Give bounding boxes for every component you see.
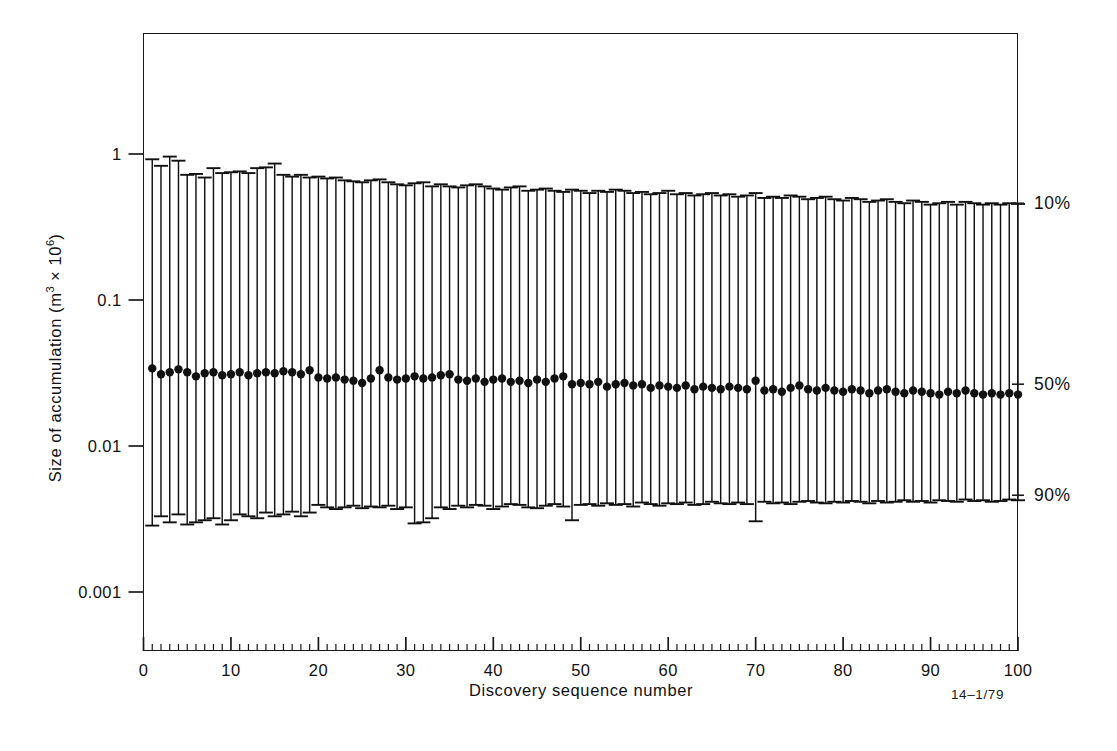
- error-bar: [670, 194, 684, 504]
- figure-reference-number: 14–1/79: [951, 687, 1004, 702]
- median-marker: [559, 372, 567, 380]
- error-bar: [661, 191, 675, 504]
- error-bar: [320, 178, 334, 507]
- median-marker: [979, 390, 987, 398]
- error-bar: [486, 189, 500, 510]
- figure-panel: 10.10.010.001 0102030405060708090100 10%…: [0, 0, 1117, 751]
- error-bar: [198, 178, 212, 521]
- median-marker: [305, 366, 313, 374]
- x-axis-tick-label: 40: [484, 661, 503, 680]
- percentile-label: 90%: [1034, 485, 1071, 506]
- x-axis-title: Discovery sequence number: [469, 681, 693, 700]
- median-marker: [489, 375, 497, 383]
- error-bar: [180, 175, 194, 525]
- error-bar: [513, 186, 527, 505]
- median-marker: [647, 384, 655, 392]
- error-bar: [154, 166, 168, 516]
- error-bar: [889, 202, 903, 502]
- error-bar: [224, 172, 238, 520]
- median-marker: [944, 388, 952, 396]
- median-marker: [673, 384, 681, 392]
- error-bar: [521, 191, 535, 508]
- median-marker: [349, 377, 357, 385]
- median-marker: [183, 368, 191, 376]
- error-bar: [967, 203, 981, 501]
- error-bar: [722, 194, 736, 504]
- error-bar: [443, 186, 457, 509]
- error-bar: [626, 193, 640, 506]
- error-bar: [346, 181, 360, 505]
- error-bar: [434, 184, 448, 507]
- median-marker: [935, 390, 943, 398]
- median-marker: [437, 371, 445, 379]
- error-bar: [451, 187, 465, 505]
- error-bar: [731, 197, 745, 503]
- median-marker: [760, 386, 768, 394]
- median-marker: [690, 385, 698, 393]
- error-bar: [644, 194, 658, 504]
- median-marker: [393, 375, 401, 383]
- error-bar: [338, 180, 352, 507]
- median-marker: [332, 373, 340, 381]
- error-bar: [679, 193, 693, 502]
- median-marker: [288, 368, 296, 376]
- error-bar: [1011, 204, 1025, 500]
- median-marker: [297, 370, 305, 378]
- median-marker: [498, 374, 506, 382]
- error-bar: [652, 193, 666, 506]
- error-bar: [206, 168, 220, 518]
- error-bar: [617, 191, 631, 504]
- median-marker: [410, 372, 418, 380]
- error-bar: [687, 195, 701, 504]
- y-axis-title-exponent-volume: 3: [44, 286, 56, 292]
- error-bar: [259, 167, 273, 512]
- median-marker: [270, 369, 278, 377]
- median-marker: [358, 379, 366, 387]
- median-marker: [402, 374, 410, 382]
- error-bar: [303, 178, 317, 513]
- median-marker: [218, 371, 226, 379]
- median-marker: [1014, 390, 1022, 398]
- y-axis-title-exponent-scale: 6: [44, 240, 56, 246]
- error-bar: [215, 173, 229, 524]
- error-bar: [950, 205, 964, 502]
- percentile-label: 50%: [1034, 374, 1071, 395]
- median-marker: [725, 382, 733, 390]
- x-axis-tick-label: 60: [659, 661, 678, 680]
- error-bar: [189, 174, 203, 522]
- median-marker: [454, 375, 462, 383]
- median-marker: [883, 385, 891, 393]
- error-bar: [565, 190, 579, 521]
- error-bar: [381, 182, 395, 505]
- error-bar: [311, 177, 325, 505]
- median-marker: [970, 389, 978, 397]
- median-marker: [778, 388, 786, 396]
- median-marker: [612, 380, 620, 388]
- error-bar: [276, 175, 290, 515]
- error-bar: [897, 203, 911, 500]
- median-marker: [909, 386, 917, 394]
- error-bar: [548, 191, 562, 504]
- median-marker: [524, 379, 532, 387]
- median-marker: [699, 382, 707, 390]
- median-marker: [445, 370, 453, 378]
- median-marker: [279, 367, 287, 375]
- median-marker: [244, 371, 252, 379]
- error-bar: [329, 178, 343, 510]
- median-marker: [865, 389, 873, 397]
- median-marker: [594, 378, 602, 386]
- error-bar: [845, 198, 859, 501]
- error-bar: [408, 183, 422, 523]
- median-marker: [235, 368, 243, 376]
- median-marker: [795, 381, 803, 389]
- median-marker: [769, 385, 777, 393]
- median-marker: [419, 374, 427, 382]
- median-marker: [874, 386, 882, 394]
- median-marker: [428, 373, 436, 381]
- median-marker: [515, 377, 523, 385]
- error-bar: [582, 193, 596, 504]
- error-bar: [635, 192, 649, 503]
- x-axis-tick-label: 70: [746, 661, 765, 680]
- x-axis-tick-label: 80: [834, 661, 853, 680]
- error-bar: [932, 203, 946, 500]
